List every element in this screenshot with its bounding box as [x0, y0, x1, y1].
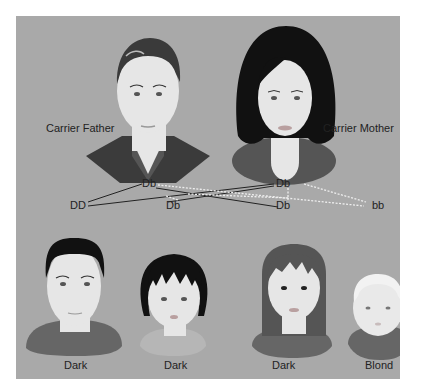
inheritance-lines	[88, 184, 366, 207]
mother-label: Carrier Mother	[323, 122, 394, 134]
inheritance-diagram: Carrier Father Carrier Mother Db Db DD D…	[16, 16, 400, 379]
diagram-graphics	[16, 16, 400, 379]
father-figure	[86, 38, 210, 183]
child-1-figure	[26, 238, 122, 356]
child-2-figure	[140, 254, 208, 356]
child-2-label: Dark	[164, 359, 187, 371]
child-1-label: Dark	[64, 359, 87, 371]
offspring-genotype-3: Db	[276, 199, 290, 211]
child-4-label: Blond	[365, 359, 393, 371]
child-4-figure	[348, 274, 400, 360]
child-3-figure	[252, 244, 332, 358]
offspring-genotype-4: bb	[372, 199, 384, 211]
father-label: Carrier Father	[46, 122, 114, 134]
mother-genotype: Db	[276, 177, 290, 189]
mother-figure	[232, 26, 336, 185]
offspring-genotype-2: Db	[166, 199, 180, 211]
father-genotype: Db	[142, 177, 156, 189]
child-3-label: Dark	[272, 359, 295, 371]
offspring-genotype-1: DD	[70, 199, 86, 211]
